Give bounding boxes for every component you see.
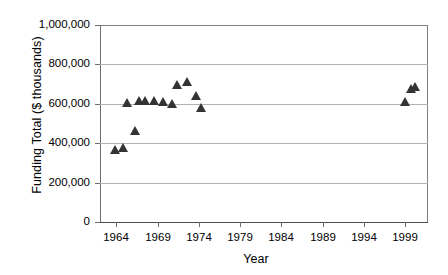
y-tick-mark — [95, 25, 100, 26]
y-tick-mark — [95, 64, 100, 65]
x-tick-mark — [158, 222, 159, 227]
x-axis-line — [100, 222, 428, 223]
data-point-marker — [167, 99, 177, 108]
x-axis-title: Year — [100, 252, 412, 266]
x-tick-mark — [405, 222, 406, 227]
y-tick-label: 200,000 — [0, 177, 90, 189]
plot-area — [100, 25, 428, 222]
gridline — [100, 183, 428, 184]
x-tick-mark — [240, 222, 241, 227]
gridline — [100, 143, 428, 144]
x-tick-mark — [364, 222, 365, 227]
data-point-marker — [122, 98, 132, 107]
y-tick-label: 0 — [0, 216, 90, 228]
y-tick-mark — [95, 183, 100, 184]
data-point-marker — [196, 103, 206, 112]
funding-total-scatter-chart: Funding Total ($ thousands) Year 0200,00… — [0, 0, 448, 275]
y-tick-label: 600,000 — [0, 98, 90, 110]
data-point-marker — [118, 143, 128, 152]
y-axis-line — [100, 25, 101, 223]
y-tick-label: 400,000 — [0, 137, 90, 149]
y-axis-title: Funding Total ($ thousands) — [30, 10, 44, 220]
x-tick-mark — [199, 222, 200, 227]
x-tick-mark — [323, 222, 324, 227]
y-tick-label: 1,000,000 — [0, 19, 90, 31]
data-point-marker — [182, 77, 192, 86]
x-tick-mark — [281, 222, 282, 227]
y-tick-label: 800,000 — [0, 58, 90, 70]
y-tick-mark — [95, 143, 100, 144]
data-point-marker — [172, 80, 182, 89]
data-point-marker — [410, 82, 420, 91]
x-tick-label: 1999 — [375, 231, 435, 243]
data-point-marker — [191, 91, 201, 100]
x-tick-mark — [116, 222, 117, 227]
data-point-marker — [130, 126, 140, 135]
gridline — [100, 64, 428, 65]
y-tick-mark — [95, 222, 100, 223]
data-point-marker — [400, 97, 410, 106]
y-tick-mark — [95, 104, 100, 105]
